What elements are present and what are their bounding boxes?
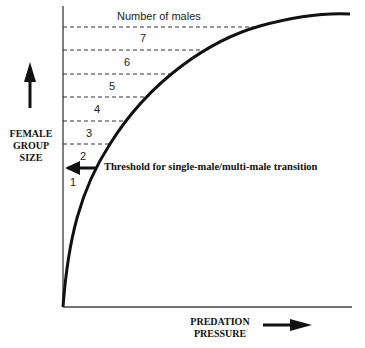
band-label-1: 1 <box>70 176 76 188</box>
threshold-label: Threshold for single-male/multi-male tra… <box>104 161 317 172</box>
right-arrow-icon <box>290 319 312 331</box>
up-arrow-icon <box>24 62 36 82</box>
x-label-line: PREDATION <box>185 316 255 328</box>
band-label-2: 2 <box>80 150 86 162</box>
y-axis-label: FEMALE GROUP SIZE <box>2 128 60 164</box>
x-axis-label: PREDATION PRESSURE <box>185 316 255 340</box>
y-label-line: GROUP <box>2 140 60 152</box>
threshold-arrow-icon <box>65 161 80 175</box>
band-label-3: 3 <box>86 127 92 139</box>
diagram-canvas <box>0 0 365 348</box>
band-label-5: 5 <box>109 80 115 92</box>
band-label-7: 7 <box>140 32 146 44</box>
band-label-6: 6 <box>124 56 130 68</box>
x-label-line: PRESSURE <box>185 328 255 340</box>
y-label-line: FEMALE <box>2 128 60 140</box>
title-number-of-males: Number of males <box>117 10 201 22</box>
band-label-4: 4 <box>94 103 100 115</box>
y-label-line: SIZE <box>2 152 60 164</box>
